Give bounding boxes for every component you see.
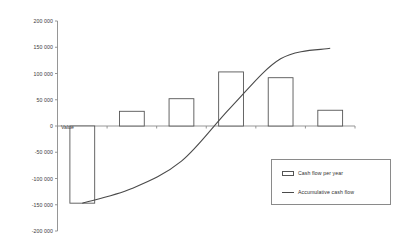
bar bbox=[219, 72, 244, 126]
bar bbox=[318, 110, 343, 126]
legend-label: Accumulative cash flow bbox=[298, 189, 354, 195]
bar bbox=[268, 78, 293, 126]
chart-plot-area bbox=[0, 0, 404, 246]
y-axis-tick-label: 200 000 bbox=[4, 18, 53, 24]
bar bbox=[70, 126, 95, 203]
y-axis-tick-label: 50 000 bbox=[4, 97, 53, 103]
y-axis-tick-label: 150 000 bbox=[4, 44, 53, 50]
legend-label: Cash flow per year bbox=[298, 170, 343, 176]
legend-item-accumulative-cash-flow: Accumulative cash flow bbox=[282, 189, 354, 195]
y-axis-tick-label: 100 000 bbox=[4, 71, 53, 77]
value-annotation-label: Value bbox=[61, 124, 74, 130]
y-axis-tick-label: -200 000 bbox=[4, 228, 53, 234]
y-axis-tick-label: -150 000 bbox=[4, 202, 53, 208]
chart-legend: Cash flow per year Accumulative cash flo… bbox=[271, 159, 391, 205]
bar bbox=[119, 111, 144, 126]
chart-container: 200 000150 000100 00050 0000-50 000-100 … bbox=[0, 0, 404, 246]
y-axis-tick-label: -100 000 bbox=[4, 176, 53, 182]
line-swatch-icon bbox=[282, 192, 294, 193]
bar bbox=[169, 99, 194, 126]
y-axis-tick-label: 0 bbox=[4, 123, 53, 129]
legend-item-cash-flow-per-year: Cash flow per year bbox=[282, 170, 343, 176]
y-axis-tick-label: -50 000 bbox=[4, 149, 53, 155]
bar-swatch-icon bbox=[282, 171, 294, 176]
